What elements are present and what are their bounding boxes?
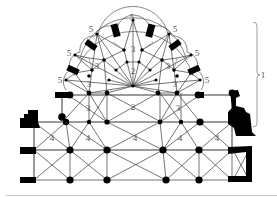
label-aisle-bay: 4 [178,134,183,143]
floor-plan-diagram [0,0,277,197]
label-ambulatory-bay: 3 [176,104,181,113]
label-choir-vault: 2 [131,103,136,112]
label-radiating-chapel: 5 [195,49,200,58]
buttresses [20,23,256,183]
label-aisle-bay: 4 [133,134,138,143]
label-radiating-chapel: 5 [58,76,63,85]
label-aisle-bay: 4 [86,134,91,143]
label-aisle-bay: 4 [215,134,220,143]
label-radiating-chapel: 5 [89,25,94,34]
page-rule [6,195,277,196]
label-ambulatory-bay: 3 [131,45,136,54]
label-choir-extent: 1 [261,71,266,80]
label-ambulatory-bay: 3 [87,80,92,89]
label-ambulatory-bay: 3 [86,104,91,113]
label-radiating-chapel: 5 [173,25,178,34]
label-aisle-bay: 4 [50,134,55,143]
extent-bracket [253,22,260,127]
label-radiating-chapel: 5 [205,76,210,85]
label-radiating-chapel: 5 [67,49,72,58]
label-apse-vault: 2 [131,67,136,76]
label-ambulatory-bay: 3 [173,80,178,89]
label-radiating-chapel: 5 [130,13,135,22]
label-ambulatory-bay: 3 [95,62,100,71]
label-ambulatory-bay: 3 [166,62,171,71]
